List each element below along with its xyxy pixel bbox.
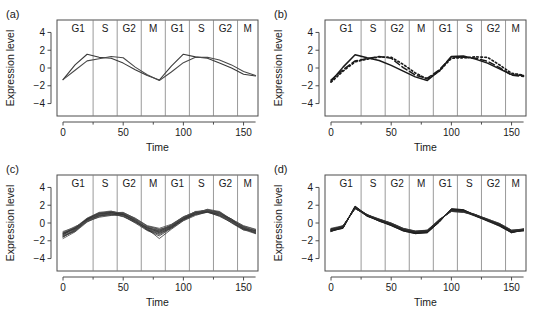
y-axis-title: Expression level <box>4 185 16 261</box>
y-tick-label: 4 <box>307 182 313 193</box>
phase-label: G1 <box>439 23 453 34</box>
y-tick-label: 0 <box>39 218 45 229</box>
plot-frame <box>325 20 526 116</box>
y-tick-label: 2 <box>39 200 45 211</box>
phase-label: G2 <box>219 23 233 34</box>
x-tick-label: 150 <box>235 127 252 138</box>
figure-panel-grid: (a)G1SG2MG1SG2M420−2−4050100150TimeExpre… <box>0 0 535 310</box>
phase-label: G2 <box>219 178 233 189</box>
x-axis-title: Time <box>146 296 169 308</box>
x-tick-label: 0 <box>328 282 334 293</box>
phase-label: G2 <box>123 178 137 189</box>
y-tick-label: −2 <box>34 235 46 246</box>
x-axis-title: Time <box>414 296 437 308</box>
phase-label: G2 <box>391 178 405 189</box>
phase-label: S <box>198 23 205 34</box>
x-tick-label: 0 <box>60 127 66 138</box>
phase-label: G2 <box>487 23 501 34</box>
phase-label: S <box>466 23 473 34</box>
x-tick-label: 50 <box>118 282 130 293</box>
x-tick-label: 100 <box>443 127 460 138</box>
y-axis-title: Expression level <box>4 30 16 106</box>
phase-label: S <box>102 178 109 189</box>
x-tick-label: 50 <box>386 282 398 293</box>
phase-label: M <box>244 23 252 34</box>
x-tick-label: 100 <box>175 127 192 138</box>
phase-label: M <box>512 178 520 189</box>
y-tick-label: −2 <box>302 235 314 246</box>
y-tick-label: −4 <box>34 98 46 109</box>
phase-label: G1 <box>439 178 453 189</box>
phase-label: G1 <box>171 178 185 189</box>
phase-label: S <box>198 178 205 189</box>
phase-label: M <box>244 178 252 189</box>
phase-label: G1 <box>339 23 353 34</box>
x-axis-title: Time <box>414 141 437 153</box>
x-tick-label: 100 <box>175 282 192 293</box>
data-curve <box>331 208 524 232</box>
y-tick-label: −2 <box>302 80 314 91</box>
x-tick-label: 0 <box>328 127 334 138</box>
plot-frame <box>57 175 258 271</box>
x-axis-title: Time <box>146 141 169 153</box>
y-tick-label: 4 <box>39 182 45 193</box>
phase-label: S <box>370 23 377 34</box>
y-tick-label: 0 <box>307 218 313 229</box>
y-tick-label: 0 <box>39 63 45 74</box>
x-tick-label: 150 <box>503 282 520 293</box>
chart-panel-c: (c)G1SG2MG1SG2M420−2−4050100150TimeExpre… <box>0 155 267 310</box>
y-tick-label: 2 <box>39 45 45 56</box>
phase-label: S <box>102 23 109 34</box>
y-axis-title: Expression level <box>272 185 284 261</box>
x-tick-label: 100 <box>443 282 460 293</box>
phase-label: G2 <box>123 23 137 34</box>
data-curve <box>63 56 256 80</box>
y-tick-label: 4 <box>307 27 313 38</box>
y-tick-label: −4 <box>302 253 314 264</box>
phase-label: G1 <box>71 178 85 189</box>
phase-label: G1 <box>339 178 353 189</box>
phase-label: S <box>370 178 377 189</box>
phase-label: M <box>417 178 425 189</box>
y-tick-label: 2 <box>307 45 313 56</box>
y-tick-label: −2 <box>34 80 46 91</box>
phase-label: G2 <box>391 23 405 34</box>
y-tick-label: −4 <box>302 98 314 109</box>
data-curve <box>63 54 256 80</box>
phase-label: M <box>149 23 157 34</box>
y-axis-title: Expression level <box>272 30 284 106</box>
chart-panel-d: (d)G1SG2MG1SG2M420−2−4050100150TimeExpre… <box>268 155 535 310</box>
chart-panel-b: (b)G1SG2MG1SG2M420−2−4050100150TimeExpre… <box>268 0 535 155</box>
phase-label: G1 <box>171 23 185 34</box>
data-curve <box>331 209 524 231</box>
x-tick-label: 50 <box>118 127 130 138</box>
phase-label: M <box>149 178 157 189</box>
x-tick-label: 150 <box>235 282 252 293</box>
y-tick-label: 4 <box>39 27 45 38</box>
y-tick-label: 0 <box>307 63 313 74</box>
data-curve <box>331 57 524 82</box>
y-tick-label: 2 <box>307 200 313 211</box>
phase-label: S <box>466 178 473 189</box>
phase-label: M <box>512 23 520 34</box>
phase-label: G1 <box>71 23 85 34</box>
phase-label: M <box>417 23 425 34</box>
plot-frame <box>57 20 258 116</box>
x-tick-label: 0 <box>60 282 66 293</box>
x-tick-label: 50 <box>386 127 398 138</box>
chart-panel-a: (a)G1SG2MG1SG2M420−2−4050100150TimeExpre… <box>0 0 267 155</box>
y-tick-label: −4 <box>34 253 46 264</box>
x-tick-label: 150 <box>503 127 520 138</box>
data-curve <box>331 209 524 231</box>
phase-label: G2 <box>487 178 501 189</box>
